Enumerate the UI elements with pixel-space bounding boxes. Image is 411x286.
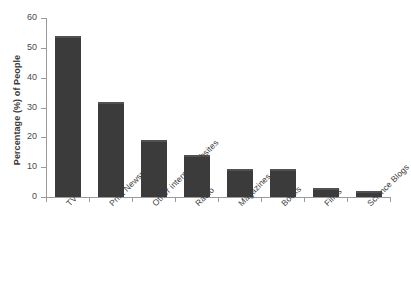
x-tick — [304, 197, 305, 202]
bar — [98, 102, 124, 197]
y-tick: 40 — [41, 78, 46, 79]
y-tick-label: 20 — [27, 131, 37, 141]
x-tick — [261, 197, 262, 202]
x-tick — [46, 197, 47, 202]
y-tick-label: 10 — [27, 161, 37, 171]
x-tick — [347, 197, 348, 202]
y-tick-label: 60 — [27, 12, 37, 22]
y-tick-label: 40 — [27, 72, 37, 82]
y-tick: 50 — [41, 48, 46, 49]
x-tick — [89, 197, 90, 202]
x-axis-label: Science Blogs — [365, 162, 411, 208]
y-axis-title: Percentage (%) of People — [12, 30, 22, 190]
y-tick-label: 0 — [32, 191, 37, 201]
y-tick: 10 — [41, 167, 46, 168]
x-tick — [132, 197, 133, 202]
y-tick-label: 50 — [27, 42, 37, 52]
y-tick-label: 30 — [27, 102, 37, 112]
plot-area: 0102030405060 TVPrint NewspapersOther in… — [46, 18, 390, 197]
x-tick — [390, 197, 391, 202]
y-tick: 30 — [41, 108, 46, 109]
bar — [55, 36, 81, 197]
y-tick: 20 — [41, 137, 46, 138]
x-tick — [175, 197, 176, 202]
y-tick: 60 — [41, 18, 46, 19]
y-axis-line — [46, 18, 47, 197]
x-tick — [218, 197, 219, 202]
